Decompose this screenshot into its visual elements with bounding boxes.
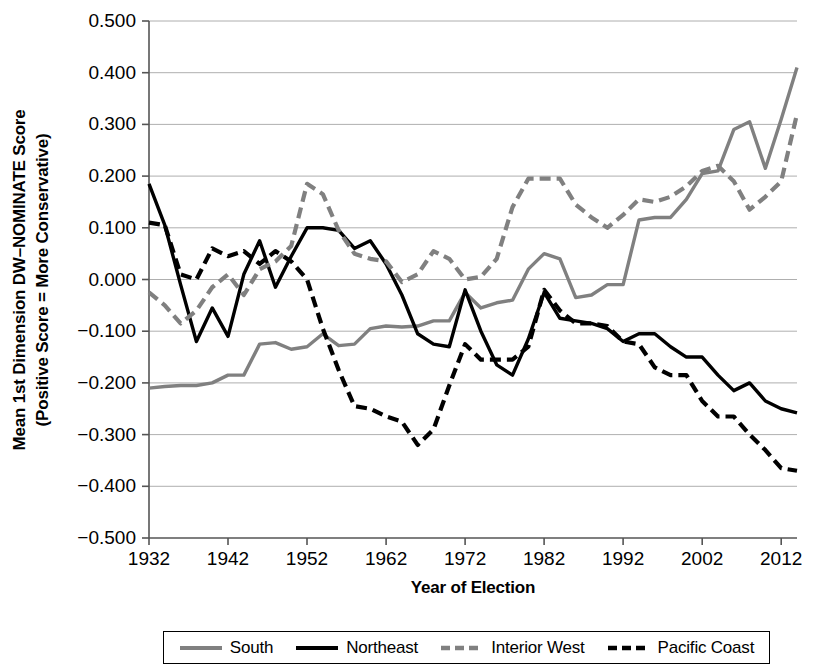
- legend-swatch-icon: [295, 642, 339, 654]
- y-tick-label: 0.100: [88, 217, 136, 238]
- x-tick-label: 1942: [207, 548, 249, 569]
- x-tick-label: 2002: [681, 548, 723, 569]
- legend-swatch-icon: [607, 642, 651, 654]
- y-tick-label: 0.400: [88, 62, 136, 83]
- plot-area: 0.5000.4000.3000.2000.1000.000−0.100−0.2…: [0, 0, 815, 600]
- y-tick-label: 0.200: [88, 165, 136, 186]
- legend-swatch-icon: [440, 642, 484, 654]
- legend-label: Northeast: [346, 638, 418, 658]
- legend-label: South: [230, 638, 273, 658]
- y-tick-label: −0.400: [77, 475, 136, 496]
- legend-label: Pacific Coast: [658, 638, 755, 658]
- legend-label: Interior West: [491, 638, 584, 658]
- y-tick-label: 0.000: [88, 269, 136, 290]
- x-tick-label: 1982: [523, 548, 565, 569]
- legend-item-interior-west: Interior West: [440, 638, 584, 658]
- y-tick-label: −0.300: [77, 424, 136, 445]
- x-axis-label: Year of Election: [149, 578, 797, 598]
- x-tick-label: 1992: [602, 548, 644, 569]
- series-line-pacific-coast: [149, 223, 797, 471]
- legend-item-pacific-coast: Pacific Coast: [607, 638, 755, 658]
- y-tick-label: 0.500: [88, 10, 136, 31]
- chart-legend: SouthNortheastInterior WestPacific Coast: [163, 631, 770, 664]
- x-tick-label: 1932: [128, 548, 170, 569]
- x-tick-label: 1972: [444, 548, 486, 569]
- series-line-interior-west: [149, 114, 797, 323]
- legend-swatch-icon: [179, 642, 223, 654]
- legend-item-northeast: Northeast: [295, 638, 418, 658]
- y-tick-label: −0.200: [77, 372, 136, 393]
- x-tick-label: 1962: [365, 548, 407, 569]
- y-tick-label: −0.100: [77, 320, 136, 341]
- legend-item-south: South: [179, 638, 273, 658]
- y-tick-label: 0.300: [88, 113, 136, 134]
- chart-figure: Mean 1st Dimension DW–NOMINATE Score (Po…: [0, 0, 815, 671]
- x-tick-label: 1952: [286, 548, 328, 569]
- x-tick-label: 2012: [760, 548, 802, 569]
- y-tick-label: −0.500: [77, 527, 136, 548]
